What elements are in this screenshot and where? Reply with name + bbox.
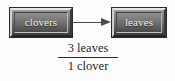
conversion-factor-diagram: clovers leaves 3 leaves 1 clover <box>0 0 175 81</box>
arrow-head <box>101 18 111 26</box>
node-clovers[interactable]: clovers <box>10 8 72 37</box>
arrow-shaft <box>72 22 103 23</box>
arrow-icon <box>72 21 112 24</box>
node-leaves[interactable]: leaves <box>112 8 166 37</box>
fraction-denominator: 1 clover <box>50 59 126 74</box>
node-leaves-label: leaves <box>125 17 153 28</box>
conversion-factor-fraction: 3 leaves 1 clover <box>50 41 126 74</box>
fraction-bar <box>58 57 118 58</box>
fraction-numerator: 3 leaves <box>50 41 126 56</box>
node-clovers-label: clovers <box>25 17 57 28</box>
